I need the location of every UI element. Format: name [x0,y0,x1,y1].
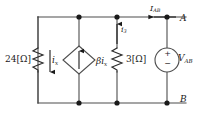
voltage-source-minus-sign: − [164,60,171,68]
current-iab-label: IAB [150,5,160,13]
junction-dot [76,14,81,19]
circuit-diagram: 24[Ω] ix βix 3[Ω] i3 IAB VAB A B + − [0,0,200,119]
node-b-label: B [180,95,187,104]
voltage-vab-symbol: V [178,53,185,63]
voltage-vab-label: VAB [178,54,193,63]
voltage-source-plus-sign: + [164,50,171,58]
current-ix-subscript: x [55,60,58,66]
resistor-3-ohm-symbol [112,48,122,72]
dependent-source-label: βix [96,57,107,66]
node-a-label: A [180,14,187,23]
dependent-source-symbol: βi [96,56,104,66]
current-iab-subscript: AB [153,7,160,13]
current-i3-label: i3 [121,26,127,34]
resistor-3-ohm-label: 3[Ω] [126,55,146,64]
node-a-dot [164,14,169,19]
resistor-24-ohm-label: 24[Ω] [5,55,31,64]
dependent-source-subscript: x [104,61,107,67]
voltage-vab-subscript: AB [185,58,193,64]
current-i3-subscript: 3 [124,28,127,34]
current-ix-label: ix [52,56,58,65]
junction-dot [114,14,119,19]
node-b-dot [164,100,169,105]
junction-dot [114,100,119,105]
junction-dot [76,100,81,105]
